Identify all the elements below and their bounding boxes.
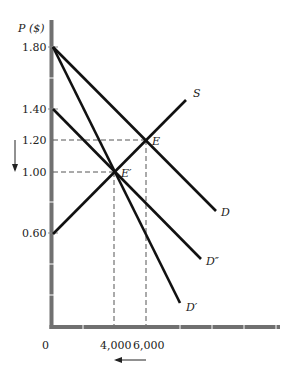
y-axis <box>50 20 54 329</box>
y-tick-100: 1.00 <box>22 166 47 179</box>
x-tick-4000: 4,000 <box>100 339 132 352</box>
label-D-prime: D′ <box>185 301 198 314</box>
label-D-double-prime: D″ <box>205 255 220 268</box>
y-tick-labels: P ($) 1.80 1.40 1.20 1.00 0.60 <box>17 22 47 240</box>
guide-lines <box>53 140 146 325</box>
label-D: D <box>220 206 230 219</box>
y-tick-140: 1.40 <box>22 103 47 116</box>
left-arrow-icon <box>114 357 146 363</box>
curves <box>53 47 216 303</box>
label-E: E <box>151 135 160 148</box>
demand-curve-D-double-prime <box>53 109 201 259</box>
x-tick-labels: 0 4,000 6,000 <box>42 339 165 352</box>
supply-demand-chart: P ($) 1.80 1.40 1.20 1.00 0.60 0 4,000 6… <box>0 0 280 376</box>
label-E-prime: E′ <box>120 167 132 180</box>
y-axis-title: P ($) <box>17 22 44 35</box>
x-axis <box>50 325 281 329</box>
y-tick-060: 0.60 <box>22 227 47 240</box>
supply-curve-S <box>53 100 186 234</box>
y-tick-120: 1.20 <box>22 134 47 147</box>
y-tick-180: 1.80 <box>22 41 47 54</box>
down-arrow-icon <box>12 140 18 172</box>
label-S: S <box>193 87 201 100</box>
axes <box>48 20 280 330</box>
demand-curve-D <box>53 47 216 211</box>
curve-labels: S D D″ D′ E E′ <box>120 87 230 314</box>
x-tick-6000: 6,000 <box>133 339 165 352</box>
x-tick-0: 0 <box>42 339 49 352</box>
